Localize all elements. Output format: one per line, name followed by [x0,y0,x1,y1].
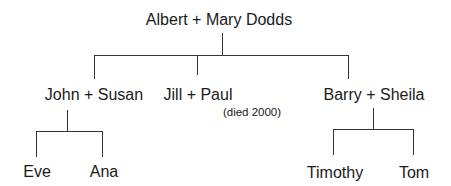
connector-to-tom [413,129,414,155]
connector-barry-sheila-children [333,129,414,130]
node-timothy: Timothy [307,164,363,182]
connector-to-eve [36,131,37,157]
connector-john-susan-down [67,110,68,131]
node-tom: Tom [399,164,429,182]
node-barry-sheila: Barry + Sheila [324,86,425,104]
node-ana: Ana [90,163,118,181]
connector-root-down [222,33,223,55]
connector-to-john-susan [94,55,95,79]
connector-to-jill-paul [197,55,198,75]
root-node-albert-mary-dodds: Albert + Mary Dodds [146,11,292,29]
family-tree-diagram: Albert + Mary Dodds John + Susan Jill + … [0,0,451,186]
connector-to-timothy [333,129,334,155]
connector-to-ana [102,131,103,157]
connector-to-barry-sheila [348,55,349,79]
node-john-susan: John + Susan [45,86,143,104]
node-eve: Eve [23,163,51,181]
note-died-2000: (died 2000) [223,105,281,119]
connector-barry-sheila-down [373,108,374,129]
connector-john-susan-children [36,131,103,132]
connector-generation-1 [94,55,349,56]
node-jill-paul: Jill + Paul [164,86,233,104]
